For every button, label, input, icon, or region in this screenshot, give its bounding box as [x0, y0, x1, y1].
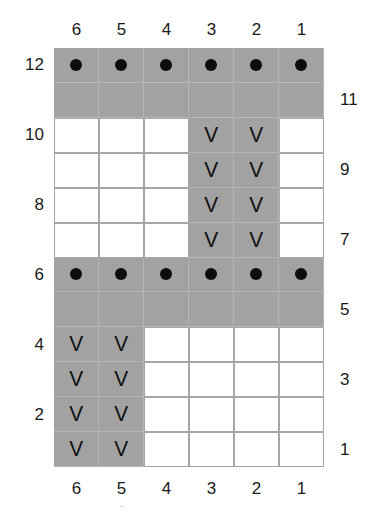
purl-dot-icon	[295, 59, 307, 71]
column-label-top: 1	[279, 20, 324, 40]
stitch-cell	[234, 48, 279, 83]
column-label-top: 5	[99, 20, 144, 40]
knit-v-symbol: V	[204, 124, 218, 146]
stitch-cell	[189, 397, 234, 432]
stitch-cell	[279, 292, 324, 327]
stitch-cell	[54, 118, 99, 153]
stitch-cell	[99, 83, 144, 118]
stitch-cell	[54, 258, 99, 293]
stitch-cell	[54, 223, 99, 258]
column-label-bottom: 2	[234, 479, 279, 499]
stitch-cell: V	[99, 397, 144, 432]
knit-v-symbol: V	[69, 438, 83, 460]
stitch-cell	[144, 327, 189, 362]
stitch-cell	[144, 118, 189, 153]
stitch-cell: V	[189, 153, 234, 188]
stitch-cell	[279, 118, 324, 153]
stitch-cell	[144, 432, 189, 467]
stitch-cell	[279, 83, 324, 118]
stitch-cell	[279, 362, 324, 397]
stitch-cell	[144, 48, 189, 83]
knit-v-symbol: V	[69, 333, 83, 355]
row-label-right: 3	[340, 370, 370, 390]
purl-dot-icon	[115, 268, 127, 280]
stitch-cell: V	[54, 327, 99, 362]
knit-v-symbol: V	[114, 403, 128, 425]
knit-v-symbol: V	[114, 438, 128, 460]
purl-dot-icon	[70, 268, 82, 280]
stitch-cell	[279, 48, 324, 83]
column-label-bottom: 5	[99, 479, 144, 499]
column-label-bottom: 4	[144, 479, 189, 499]
stitch-cell	[234, 327, 279, 362]
column-label-bottom: 6	[54, 479, 99, 499]
stitch-cell: V	[54, 362, 99, 397]
stitch-cell	[234, 362, 279, 397]
stitch-cell	[234, 292, 279, 327]
stitch-cell	[99, 188, 144, 223]
stitch-cell	[54, 48, 99, 83]
knit-v-symbol: V	[249, 229, 263, 251]
stitch-cell	[189, 48, 234, 83]
knit-v-symbol: V	[249, 159, 263, 181]
stitch-cell	[99, 258, 144, 293]
purl-dot-icon	[160, 268, 172, 280]
stitch-cell: V	[189, 188, 234, 223]
stitch-cell	[144, 223, 189, 258]
row-label-left: 6	[4, 265, 44, 285]
stitch-cell	[54, 292, 99, 327]
stitch-cell	[234, 83, 279, 118]
column-label-bottom: 1	[279, 479, 324, 499]
column-label-top: 2	[234, 20, 279, 40]
row-label-left: 8	[4, 195, 44, 215]
row-label-left: 2	[4, 405, 44, 425]
stitch-cell	[279, 188, 324, 223]
column-label-top: 6	[54, 20, 99, 40]
stitch-cell	[99, 292, 144, 327]
row-label-right: 5	[340, 300, 370, 320]
stitch-cell: V	[234, 223, 279, 258]
row-label-right: 11	[340, 90, 370, 110]
column-label-top: 4	[144, 20, 189, 40]
knit-v-symbol: V	[114, 368, 128, 390]
stitch-cell	[144, 83, 189, 118]
row-label-right: 1	[340, 440, 370, 460]
stitch-cell	[144, 188, 189, 223]
knit-v-symbol: V	[249, 124, 263, 146]
stitch-cell	[189, 83, 234, 118]
stitch-cell: V	[234, 188, 279, 223]
knitting-chart: 654321 VVVVVVVVVVVVVVVV 12108642 1197531…	[0, 0, 379, 515]
stitch-cell	[144, 362, 189, 397]
stitch-cell	[144, 153, 189, 188]
stitch-cell	[279, 432, 324, 467]
purl-dot-icon	[250, 268, 262, 280]
stitch-cell	[144, 292, 189, 327]
stitch-cell: V	[189, 223, 234, 258]
purl-dot-icon	[250, 59, 262, 71]
stitch-cell	[234, 258, 279, 293]
stitch-cell: V	[99, 432, 144, 467]
stitch-cell: V	[189, 118, 234, 153]
row-label-left: 10	[4, 125, 44, 145]
stitch-cell	[279, 153, 324, 188]
row-label-left: 4	[4, 335, 44, 355]
stitch-cell	[144, 258, 189, 293]
row-label-right: 9	[340, 160, 370, 180]
knit-v-symbol: V	[204, 229, 218, 251]
stitch-cell	[279, 397, 324, 432]
column-label-top: 3	[189, 20, 234, 40]
row-label-left: 12	[4, 55, 44, 75]
knit-v-symbol: V	[69, 403, 83, 425]
stitch-cell: V	[234, 118, 279, 153]
purl-dot-icon	[205, 268, 217, 280]
stitch-cell	[189, 362, 234, 397]
stitch-cell: V	[99, 327, 144, 362]
knit-v-symbol: V	[69, 368, 83, 390]
stitch-cell	[234, 432, 279, 467]
column-label-bottom: 3	[189, 479, 234, 499]
knit-v-symbol: V	[204, 194, 218, 216]
stitch-cell	[279, 223, 324, 258]
stitch-cell	[144, 397, 189, 432]
stitch-cell: V	[54, 397, 99, 432]
print-speck	[121, 506, 122, 507]
